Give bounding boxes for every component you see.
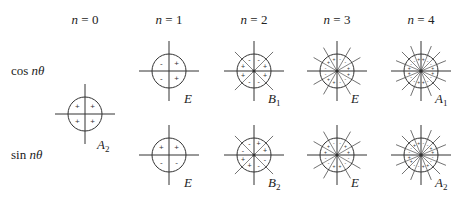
plus-sign: +: [247, 162, 251, 169]
label-subscript: 2: [276, 182, 281, 192]
plus-sign: +: [429, 145, 432, 151]
plus-sign: +: [332, 79, 335, 85]
nodal-ray: [314, 142, 323, 147]
plus-sign: +: [174, 143, 179, 152]
nodal-ray: [411, 87, 415, 96]
nodal-ray: [428, 130, 432, 139]
plus-sign: +: [417, 56, 420, 62]
plus-sign: +: [327, 59, 330, 65]
symmetry-label-sin-n2: B2: [268, 175, 280, 192]
plus-sign: +: [241, 156, 245, 163]
nodal-ray: [402, 167, 409, 174]
plus-sign: +: [417, 140, 420, 146]
symmetry-label-cos-n4: A1: [435, 91, 447, 108]
nodal-ray: [411, 130, 415, 139]
plus-sign: +: [417, 79, 420, 85]
minus-sign: -: [325, 155, 327, 161]
nodal-ray: [437, 61, 446, 65]
nodal-ray: [352, 164, 361, 169]
nodal-ray: [433, 83, 440, 90]
plus-sign: +: [347, 65, 350, 71]
minus-sign: -: [325, 65, 327, 71]
nodal-ray: [428, 46, 432, 55]
nodal-ray: [411, 171, 415, 180]
minus-sign: -: [414, 58, 416, 64]
nodal-ray: [235, 52, 242, 59]
plus-sign: +: [90, 102, 95, 111]
nodal-ray: [396, 61, 405, 65]
nodal-ray: [402, 136, 409, 143]
minus-sign: -: [257, 162, 260, 169]
nodal-ray: [324, 86, 329, 95]
plus-sign: +: [324, 149, 327, 155]
label-main: B: [268, 91, 276, 106]
plus-sign: +: [347, 149, 350, 155]
nodal-ray: [235, 136, 242, 143]
plus-sign: +: [422, 163, 425, 169]
nodal-ray: [266, 83, 273, 90]
label-subscript: 2: [443, 182, 448, 192]
minus-sign: -: [160, 59, 163, 68]
orbital-symmetry-diagram: ++++-+-+++--+--++--+++--++--+--++--++--+…: [0, 0, 466, 197]
nodal-ray: [346, 170, 351, 179]
label-main: E: [351, 91, 359, 106]
label-main: B: [268, 175, 276, 190]
minus-sign: -: [418, 163, 420, 169]
label-main: A: [435, 175, 443, 190]
label-main: A: [97, 137, 105, 152]
symmetry-label-cos-n1: E: [184, 91, 192, 107]
plus-sign: +: [327, 76, 330, 82]
nodal-ray: [346, 86, 351, 95]
nodal-ray: [437, 145, 446, 149]
minus-sign: -: [339, 56, 341, 62]
nodal-ray: [235, 167, 242, 174]
minus-sign: -: [328, 160, 330, 166]
minus-sign: -: [422, 140, 424, 146]
minus-sign: -: [160, 74, 163, 83]
minus-sign: -: [410, 74, 412, 80]
nodal-ray: [235, 83, 242, 90]
plus-sign: +: [174, 59, 179, 68]
minus-sign: -: [257, 56, 260, 63]
symmetry-label-sin-n4: A2: [435, 175, 447, 192]
plus-sign: +: [431, 70, 434, 76]
nodal-ray: [437, 78, 446, 82]
plus-sign: +: [241, 63, 245, 70]
minus-sign: -: [427, 58, 429, 64]
center-dot: [252, 153, 255, 156]
center-dot: [419, 69, 422, 72]
nodal-ray: [266, 136, 273, 143]
minus-sign: -: [248, 78, 251, 85]
center-dot: [335, 69, 338, 72]
minus-sign: -: [339, 140, 341, 146]
nodal-ray: [428, 87, 432, 96]
plus-sign: +: [422, 79, 425, 85]
minus-sign: -: [257, 78, 260, 85]
plus-sign: +: [327, 143, 330, 149]
symmetry-label-n0: A2: [97, 137, 109, 154]
symmetry-label-cos-n2: B1: [268, 91, 280, 108]
nodal-ray: [346, 132, 351, 141]
nodal-ray: [437, 162, 446, 166]
plus-sign: +: [410, 158, 413, 164]
plus-sign: +: [263, 147, 267, 154]
label-main: E: [184, 175, 192, 190]
minus-sign: -: [264, 156, 267, 163]
minus-sign: -: [160, 158, 163, 167]
minus-sign: -: [242, 147, 245, 154]
label-main: E: [351, 175, 359, 190]
nodal-ray: [428, 171, 432, 180]
nodal-ray: [324, 132, 329, 141]
minus-sign: -: [248, 56, 251, 63]
plus-sign: +: [426, 162, 429, 168]
plus-sign: +: [263, 72, 267, 79]
symmetry-label-cos-n3: E: [351, 91, 359, 107]
nodal-ray: [396, 78, 405, 82]
nodal-ray: [266, 167, 273, 174]
nodal-ray: [396, 145, 405, 149]
plus-sign: +: [263, 63, 267, 70]
nodal-ray: [314, 164, 323, 169]
plus-sign: +: [257, 140, 261, 147]
nodal-ray: [433, 167, 440, 174]
nodal-ray: [324, 48, 329, 57]
